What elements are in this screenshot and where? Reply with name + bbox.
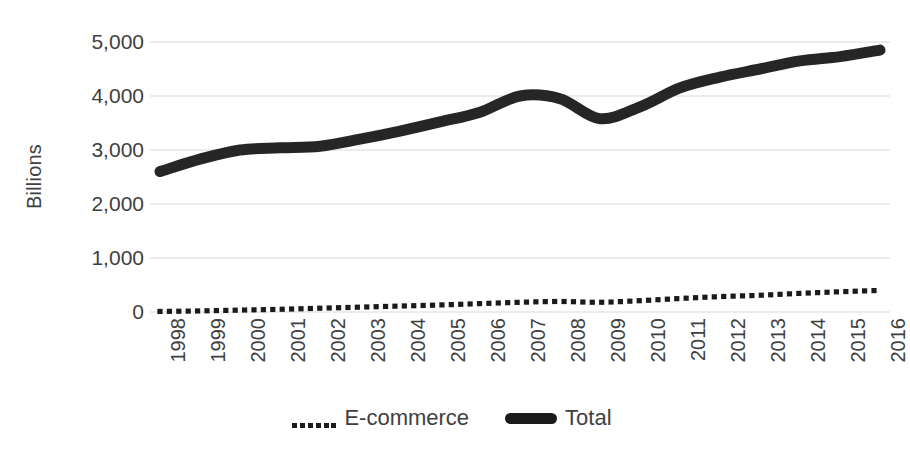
- x-tick-label: 2001: [287, 318, 310, 388]
- dotted-line-marker-icon: [292, 415, 336, 421]
- x-tick-label: 2007: [527, 318, 550, 388]
- solid-line-marker-icon: [505, 413, 557, 424]
- x-tick-label: 2008: [567, 318, 590, 388]
- y-tick-label: 1,000: [48, 246, 144, 270]
- y-tick-label: 5,000: [48, 30, 144, 54]
- x-tick-label: 2010: [647, 318, 670, 388]
- legend-label-ecommerce: E-commerce: [344, 405, 469, 431]
- y-tick-label: 0: [48, 300, 144, 324]
- y-axis-tick-labels: 01,0002,0003,0004,0005,000: [48, 0, 144, 449]
- x-tick-label: 1998: [167, 318, 190, 388]
- y-axis-title: Billions: [23, 107, 46, 247]
- y-tick-label: 2,000: [48, 192, 144, 216]
- x-tick-label: 2002: [327, 318, 350, 388]
- x-tick-label: 2004: [407, 318, 430, 388]
- x-tick-label: 2006: [487, 318, 510, 388]
- x-axis-tick-labels: 1998199920002001200220032004200520062007…: [150, 0, 890, 449]
- x-tick-label: 2014: [807, 318, 830, 388]
- x-tick-label: 2012: [727, 318, 750, 388]
- x-tick-label: 2003: [367, 318, 390, 388]
- x-tick-label: 1999: [207, 318, 230, 388]
- x-tick-label: 2015: [847, 318, 870, 388]
- x-tick-label: 2005: [447, 318, 470, 388]
- legend-item-ecommerce[interactable]: E-commerce: [292, 405, 469, 431]
- x-tick-label: 2013: [767, 318, 790, 388]
- x-tick-label: 2000: [247, 318, 270, 388]
- y-tick-label: 4,000: [48, 84, 144, 108]
- x-tick-label: 2011: [687, 318, 710, 388]
- x-tick-label: 2016: [887, 318, 910, 388]
- chart-legend: E-commerce Total: [0, 398, 904, 438]
- x-tick-label: 2009: [607, 318, 630, 388]
- legend-label-total: Total: [565, 405, 611, 431]
- legend-item-total[interactable]: Total: [505, 405, 611, 431]
- y-tick-label: 3,000: [48, 138, 144, 162]
